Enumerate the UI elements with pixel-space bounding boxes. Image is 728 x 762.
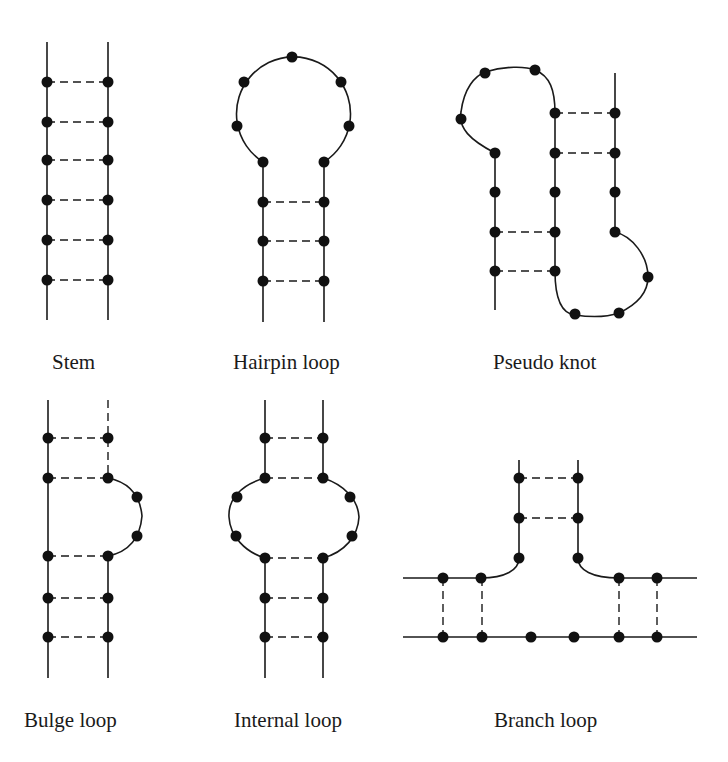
nucleotide-dot: [476, 573, 487, 584]
nucleotide-dot: [569, 632, 580, 643]
nucleotide-dot: [480, 68, 491, 79]
nucleotide-dot: [652, 632, 663, 643]
nucleotide-dot: [319, 197, 330, 208]
nucleotide-dot: [610, 187, 621, 198]
nucleotide-dot: [260, 433, 271, 444]
nucleotide-dot: [456, 114, 467, 125]
nucleotide-dot: [438, 632, 449, 643]
backbone-strand: [403, 460, 519, 578]
nucleotide-dot: [318, 433, 329, 444]
nucleotide-dot: [42, 155, 53, 166]
backbone-strand: [578, 460, 697, 578]
nucleotide-dot: [103, 117, 114, 128]
nucleotide-dot: [232, 492, 243, 503]
nucleotide-dot: [336, 77, 347, 88]
nucleotide-dot: [526, 632, 537, 643]
nucleotide-dot: [260, 473, 271, 484]
stem-panel: [42, 42, 114, 320]
nucleotide-dot: [43, 632, 54, 643]
nucleotide-dot: [573, 473, 584, 484]
nucleotide-dot: [347, 531, 358, 542]
nucleotide-dot: [103, 275, 114, 286]
pseudo-knot-label: Pseudo knot: [493, 352, 596, 373]
nucleotide-dot: [318, 632, 329, 643]
nucleotide-dot: [573, 513, 584, 524]
rna-secondary-structure-diagram: [0, 0, 728, 762]
nucleotide-dot: [490, 266, 501, 277]
nucleotide-dot: [610, 148, 621, 159]
nucleotide-dot: [438, 573, 449, 584]
nucleotide-dot: [490, 187, 501, 198]
nucleotide-dot: [260, 553, 271, 564]
nucleotide-dot: [344, 121, 355, 132]
nucleotide-dot: [652, 573, 663, 584]
nucleotide-dot: [103, 593, 114, 604]
nucleotide-dot: [239, 77, 250, 88]
nucleotide-dot: [614, 632, 625, 643]
nucleotide-dot: [132, 531, 143, 542]
nucleotide-dot: [477, 632, 488, 643]
nucleotide-dot: [570, 309, 581, 320]
nucleotide-dot: [319, 236, 330, 247]
bulge-loop-label: Bulge loop: [24, 710, 117, 731]
nucleotide-dot: [530, 65, 541, 76]
nucleotide-dot: [231, 531, 242, 542]
nucleotide-dot: [258, 276, 269, 287]
internal-loop-panel: [229, 400, 359, 678]
pseudo-knot-panel: [456, 65, 654, 320]
nucleotide-dot: [610, 108, 621, 119]
nucleotide-dot: [490, 227, 501, 238]
hairpin-loop-label: Hairpin loop: [233, 352, 340, 373]
internal-loop-label: Internal loop: [234, 710, 342, 731]
nucleotide-dot: [103, 433, 114, 444]
nucleotide-dot: [318, 553, 329, 564]
hairpin-loop-panel: [232, 52, 355, 323]
nucleotide-dot: [345, 492, 356, 503]
nucleotide-dot: [550, 266, 561, 277]
nucleotide-dot: [232, 121, 243, 132]
backbone-strand: [108, 478, 142, 678]
nucleotide-dot: [573, 553, 584, 564]
nucleotide-dot: [43, 551, 54, 562]
nucleotide-dot: [258, 197, 269, 208]
nucleotide-dot: [550, 227, 561, 238]
nucleotide-dot: [103, 551, 114, 562]
nucleotide-dot: [42, 77, 53, 88]
nucleotide-dot: [550, 108, 561, 119]
nucleotide-dot: [103, 632, 114, 643]
nucleotide-dot: [550, 187, 561, 198]
nucleotide-dot: [514, 473, 525, 484]
nucleotide-dot: [103, 473, 114, 484]
nucleotide-dot: [103, 195, 114, 206]
branch-loop-panel: [403, 460, 697, 643]
nucleotide-dot: [319, 157, 330, 168]
branch-loop-label: Branch loop: [494, 710, 597, 731]
nucleotide-dot: [132, 492, 143, 503]
nucleotide-dot: [42, 275, 53, 286]
nucleotide-dot: [43, 593, 54, 604]
nucleotide-dot: [318, 473, 329, 484]
nucleotide-dot: [490, 148, 501, 159]
nucleotide-dot: [42, 195, 53, 206]
nucleotide-dot: [319, 276, 330, 287]
nucleotide-dot: [260, 593, 271, 604]
bulge-loop-panel: [43, 400, 143, 678]
nucleotide-dot: [550, 148, 561, 159]
nucleotide-dot: [514, 513, 525, 524]
nucleotide-dot: [43, 433, 54, 444]
nucleotide-dot: [287, 52, 298, 63]
nucleotide-dot: [514, 553, 525, 564]
nucleotide-dot: [258, 157, 269, 168]
nucleotide-dot: [260, 632, 271, 643]
nucleotide-dot: [103, 235, 114, 246]
nucleotide-dot: [318, 593, 329, 604]
nucleotide-dot: [614, 308, 625, 319]
nucleotide-dot: [614, 573, 625, 584]
nucleotide-dot: [103, 77, 114, 88]
stem-label: Stem: [52, 352, 95, 373]
backbone-strand: [237, 57, 351, 322]
nucleotide-dot: [42, 117, 53, 128]
nucleotide-dot: [643, 272, 654, 283]
nucleotide-dot: [43, 473, 54, 484]
nucleotide-dot: [610, 227, 621, 238]
